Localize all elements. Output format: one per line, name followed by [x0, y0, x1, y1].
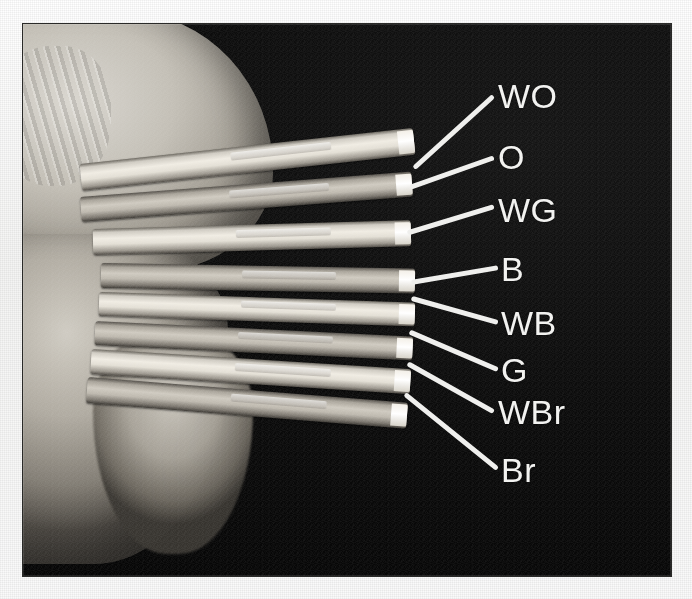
wire-tip [395, 174, 413, 196]
photograph: WOOWGBWBGWBrBr [22, 23, 672, 577]
wire-tip [397, 130, 415, 154]
wire-tip [399, 304, 416, 325]
wire-tip [399, 270, 415, 291]
wire-label-wbr: WBr [498, 395, 566, 429]
wire-tip [394, 370, 411, 392]
wire-label-b: B [501, 252, 524, 286]
wire-scuff [242, 270, 336, 280]
wire-label-br: Br [501, 453, 536, 487]
page-canvas: WOOWGBWBGWBrBr [0, 0, 692, 599]
wire-tip [395, 222, 412, 244]
wire-label-wo: WO [498, 79, 558, 113]
wire-label-o: O [498, 140, 525, 174]
wire-label-g: G [501, 353, 528, 387]
wire-label-wg: WG [498, 193, 558, 227]
wire-tip [390, 404, 408, 427]
wire-tip [396, 338, 413, 359]
wire-label-wb: WB [501, 306, 557, 340]
